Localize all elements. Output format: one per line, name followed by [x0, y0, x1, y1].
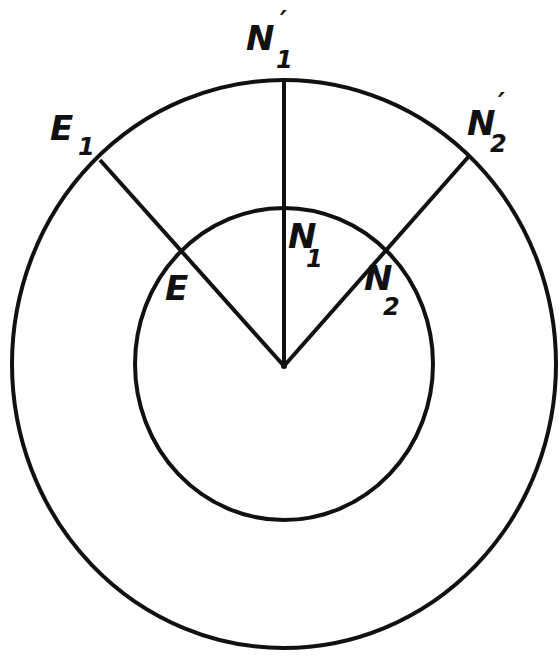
label-e1-main: E	[50, 108, 73, 148]
label-e: E	[165, 268, 188, 308]
label-n1-prime: N 1 ′	[246, 6, 293, 74]
label-n1-prime-mark: ′	[280, 6, 287, 36]
center-point	[281, 363, 287, 369]
label-n1: N 1	[288, 216, 323, 273]
label-e1: E 1	[50, 108, 95, 161]
label-n2-main: N	[364, 258, 392, 298]
label-n1-prime-main: N	[246, 18, 274, 58]
label-n2-prime: N 2 ′	[467, 88, 507, 158]
label-n1-sub: 1	[306, 245, 323, 273]
label-n2-prime-mark: ′	[498, 88, 505, 118]
label-n2: N 2	[364, 258, 400, 321]
label-n2-sub: 2	[383, 293, 400, 321]
label-n1-prime-sub: 1	[276, 46, 293, 74]
label-e-main: E	[165, 268, 188, 308]
label-n2-prime-sub: 2	[490, 130, 507, 158]
label-e1-sub: 1	[78, 133, 95, 161]
radial-line-e1	[100, 160, 284, 366]
diagram-canvas: E 1 N 1 ′ N 2 ′ E N 1 N 2	[0, 0, 560, 668]
